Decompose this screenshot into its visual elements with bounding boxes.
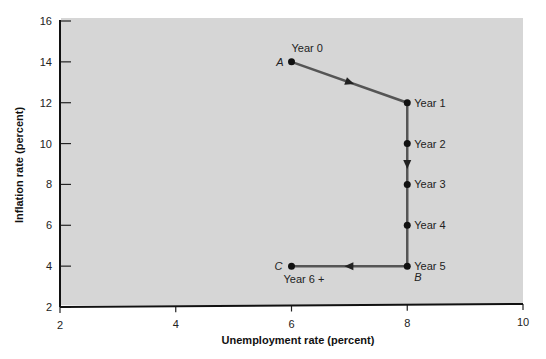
point-label: Year 6 + [284,273,325,285]
y-tick-label: 4 [46,260,52,272]
y-tick-label: 2 [46,301,52,313]
x-axis-ticks: 246810 [57,304,529,331]
point-letter: C [275,260,283,272]
data-point [288,263,295,270]
x-tick-label: 8 [404,317,410,329]
point-letter: A [275,56,283,68]
x-tick-label: 10 [517,316,529,328]
point-label: Year 0 [292,42,323,54]
point-letter: B [414,271,421,283]
y-tick-label: 16 [40,15,52,27]
data-point [288,58,295,65]
data-point [404,263,411,270]
y-tick-label: 14 [40,56,52,68]
x-axis-title: Unemployment rate (percent) [222,334,375,346]
data-point [404,140,411,147]
y-axis-title: Inflation rate (percent) [13,107,25,223]
point-label: Year 4 [414,219,445,231]
x-tick-label: 6 [288,318,294,330]
point-label: Year 1 [414,97,445,109]
point-label: Year 3 [414,178,445,190]
data-point [404,99,411,106]
y-tick-label: 8 [46,178,52,190]
x-tick-label: 4 [173,318,179,330]
data-point [404,222,411,229]
chart: 246810121416 246810 Year 0AYear 1Year 2Y… [0,0,546,359]
x-tick-label: 2 [57,319,63,331]
point-label: Year 2 [414,138,445,150]
y-tick-label: 10 [40,138,52,150]
y-tick-label: 6 [46,219,52,231]
data-point [404,181,411,188]
y-tick-label: 12 [40,97,52,109]
